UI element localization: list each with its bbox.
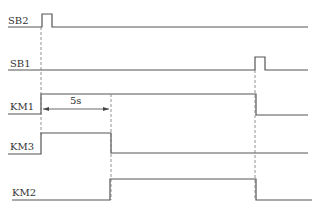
waveform-km1: [8, 94, 308, 115]
arrow-left-icon: [43, 107, 49, 111]
timing-diagram: SB2 SB1 KM1 KM3 KM2 5s: [0, 0, 322, 212]
waveform-sb1: [8, 57, 308, 70]
arrow-right-icon: [103, 107, 109, 111]
waveform-km2: [12, 179, 312, 200]
signal-label-km3: KM3: [10, 141, 34, 152]
signal-label-sb1: SB1: [10, 58, 31, 69]
waveform-sb2: [8, 14, 308, 27]
waveform-km3: [8, 133, 308, 154]
signal-label-km2: KM2: [12, 187, 36, 198]
signal-label-km1: KM1: [10, 101, 34, 112]
signal-label-sb2: SB2: [8, 15, 29, 26]
delay-label: 5s: [70, 95, 82, 106]
